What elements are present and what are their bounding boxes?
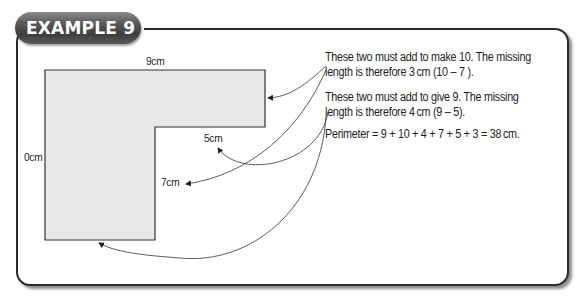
l-shape	[45, 70, 265, 240]
note-1-line-2: length is therefore 3 cm (10 – 7 ).	[325, 65, 557, 80]
note-missing-4cm: These two must add to give 9. The missin…	[325, 90, 557, 120]
label-inner-7cm: 7cm	[161, 176, 179, 188]
label-left-10cm: 0cm	[24, 151, 42, 163]
note-1-line-1: These two must add to make 10. The missi…	[325, 50, 557, 65]
l-shape-diagram	[0, 0, 588, 305]
label-top-9cm: 9cm	[146, 55, 164, 67]
note-missing-3cm: These two must add to make 10. The missi…	[325, 50, 557, 80]
note-2-line-1: These two must add to give 9. The missin…	[325, 90, 557, 105]
arrow-to-right-edge	[268, 66, 326, 98]
perimeter-line: Perimeter = 9 + 10 + 4 + 7 + 5 + 3 = 38 …	[325, 127, 557, 142]
note-2-line-2: length is therefore 4 cm (9 – 5).	[325, 105, 557, 120]
label-inner-5cm: 5cm	[204, 132, 222, 144]
